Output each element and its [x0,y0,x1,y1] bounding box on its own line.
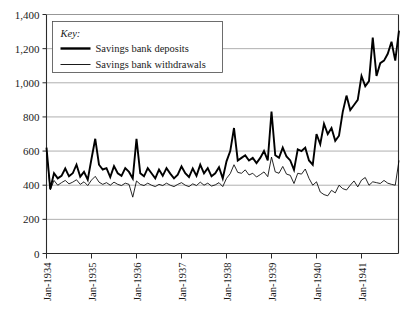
x-tick-label: Jan-1936 [132,263,143,302]
x-tick-label: Jan-1941 [357,263,368,302]
x-axis-tick-labels: Jan-1934Jan-1935Jan-1936Jan-1937Jan-1938… [42,262,368,301]
y-tick-label: 600 [23,145,40,157]
y-tick-label: 400 [23,179,40,191]
x-tick-label: Jan-1939 [267,263,278,302]
x-tickmarks-group [47,254,362,259]
x-tick-label: Jan-1935 [87,263,98,302]
y-tick-label: 0 [34,248,40,260]
y-tick-label: 200 [23,213,40,225]
y-tick-label: 1,000 [15,77,40,89]
legend-label-1: Savings bank deposits [96,43,189,54]
legend-label-2: Savings bank withdrawals [96,59,206,70]
x-tick-label: Jan-1934 [42,262,53,301]
chart-container: 02004006008001,0001,2001,400 Jan-1934Jan… [0,0,411,325]
chart-legend: Key:Savings bank depositsSavings bank wi… [53,22,223,73]
x-tick-label: Jan-1937 [177,263,188,302]
legend-title: Key: [60,28,81,39]
y-tick-label: 800 [23,111,40,123]
y-tick-label: 1,200 [15,43,40,55]
y-tickmarks-group [43,15,47,254]
y-axis-tick-labels: 02004006008001,0001,2001,400 [15,9,40,260]
x-tick-label: Jan-1938 [222,263,233,302]
y-tick-label: 1,400 [15,9,40,21]
x-tick-label: Jan-1940 [312,263,323,302]
line-chart: 02004006008001,0001,2001,400 Jan-1934Jan… [0,0,411,325]
